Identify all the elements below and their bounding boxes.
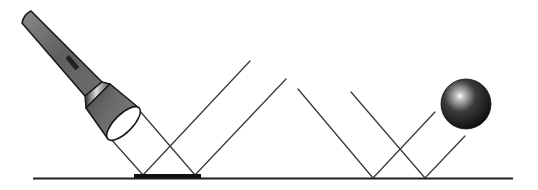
reflected-ray-2 bbox=[195, 79, 286, 175]
incident-ray-1 bbox=[110, 138, 143, 175]
diagram-canvas bbox=[0, 0, 538, 190]
ball bbox=[441, 79, 491, 129]
reflection-diagram bbox=[0, 0, 538, 190]
ball-rays bbox=[298, 89, 465, 178]
reflected-ray-4 bbox=[425, 136, 465, 178]
incident-ray-3 bbox=[298, 89, 373, 178]
incident-ray-2 bbox=[139, 110, 195, 175]
flashlight-icon bbox=[22, 11, 145, 145]
reflected-ray-1 bbox=[143, 61, 250, 175]
reflected-ray-3 bbox=[373, 112, 435, 178]
mirror bbox=[134, 174, 201, 178]
